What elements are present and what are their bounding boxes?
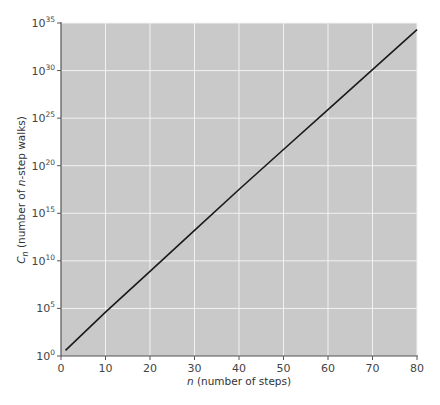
y-axis-ticks: 100105101010151020102510301035 <box>31 15 61 363</box>
y-axis-title-var2: n <box>15 180 27 187</box>
x-tick-label: 70 <box>366 362 380 375</box>
y-axis-title-text2: -step walks) <box>15 116 27 179</box>
x-tick-label: 20 <box>143 362 157 375</box>
y-axis-title: Cn (number of n-step walks) <box>15 116 30 264</box>
y-tick-label: 100 <box>36 348 55 363</box>
x-axis-title-var: n <box>187 375 194 387</box>
x-tick-label: 30 <box>188 362 202 375</box>
x-tick-label: 50 <box>277 362 291 375</box>
x-axis-title-text: (number of steps) <box>194 375 292 387</box>
x-tick-label: 80 <box>410 362 424 375</box>
y-tick-label: 105 <box>36 300 55 315</box>
y-tick-label: 1030 <box>31 63 55 78</box>
y-tick-label: 1035 <box>31 15 55 30</box>
y-tick-label: 1015 <box>31 205 55 220</box>
x-axis-title: n (number of steps) <box>187 375 291 387</box>
x-tick-label: 60 <box>321 362 335 375</box>
x-axis-ticks: 01020304050607080 <box>58 356 425 375</box>
x-tick-label: 0 <box>58 362 65 375</box>
x-tick-label: 10 <box>99 362 113 375</box>
y-axis-title-text: (number of <box>15 186 27 251</box>
x-tick-label: 40 <box>232 362 246 375</box>
y-tick-label: 1025 <box>31 110 55 125</box>
y-tick-label: 1010 <box>31 253 55 268</box>
y-tick-label: 1020 <box>31 158 55 173</box>
chart: 01020304050607080 1001051010101510201025… <box>0 0 440 405</box>
